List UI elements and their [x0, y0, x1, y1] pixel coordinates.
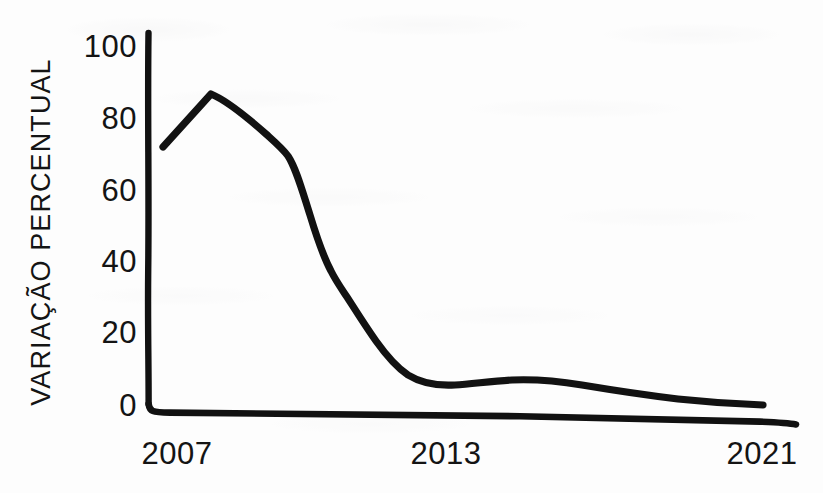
x-tick-label-2021: 2021	[727, 436, 798, 471]
x-tick-label-2007: 2007	[142, 436, 213, 471]
x-axis-line	[149, 404, 796, 424]
y-axis-title: VARIAÇÃO PERCENTUAL	[25, 58, 56, 405]
x-tick-label-2013: 2013	[411, 436, 482, 471]
chart-figure: VARIAÇÃO PERCENTUAL 100 80 60 40 20 0 20…	[0, 0, 823, 493]
y-tick-label-60: 60	[102, 173, 137, 208]
y-tick-label-0: 0	[119, 388, 137, 423]
data-series-line	[163, 94, 763, 405]
y-axis-line	[148, 33, 149, 404]
y-tick-label-40: 40	[102, 244, 137, 279]
y-tick-label-20: 20	[102, 315, 137, 350]
line-chart-canvas: VARIAÇÃO PERCENTUAL 100 80 60 40 20 0 20…	[0, 0, 823, 493]
y-tick-label-80: 80	[102, 101, 137, 136]
y-tick-label-100: 100	[84, 29, 137, 64]
